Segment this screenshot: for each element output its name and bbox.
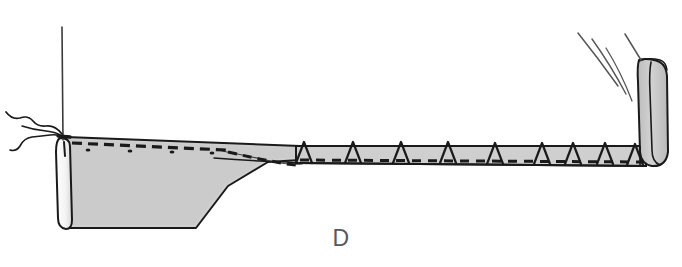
motion-arc (592, 39, 626, 94)
thread-squiggle-lower (10, 135, 63, 151)
motion-arc (578, 33, 618, 86)
needle-thread-line (62, 27, 63, 140)
sewing-illustration (0, 0, 682, 267)
left-roll-crease (64, 142, 65, 156)
figure-canvas: D (0, 0, 682, 267)
motion-arcs-group (578, 33, 632, 101)
thread-knot (58, 136, 70, 137)
right-rolled-end (638, 59, 668, 166)
fabric-shading (70, 140, 297, 225)
thread-squiggle-upper (6, 112, 62, 134)
right-fabric-edge-line (625, 34, 641, 60)
